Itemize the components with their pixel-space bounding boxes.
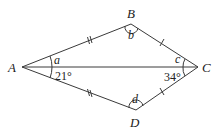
angle-label-d: d — [132, 92, 139, 106]
vertex-label-c: C — [202, 60, 211, 75]
vertex-label-b: B — [127, 6, 135, 21]
angle-label-21: 21° — [55, 69, 72, 83]
vertex-label-d: D — [129, 115, 140, 130]
angle-label-a: a — [54, 53, 60, 67]
kite-diagram: A B C D a 21° b c 34° d — [0, 0, 220, 130]
edge-bc — [131, 24, 198, 67]
vertex-label-a: A — [7, 60, 16, 75]
angle-arc-21 — [50, 67, 52, 78]
angle-label-34: 34° — [164, 70, 181, 84]
angle-label-b: b — [128, 28, 134, 42]
edge-da — [22, 67, 136, 110]
angle-arc-c — [183, 59, 185, 67]
angle-arc-a — [50, 56, 52, 67]
angle-label-c: c — [175, 52, 181, 66]
angle-arc-34 — [183, 67, 185, 76]
edge-ab — [22, 24, 131, 67]
